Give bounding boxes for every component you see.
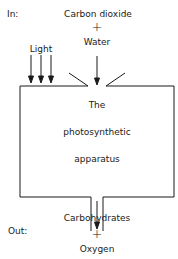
output-plus-sign: +: [92, 229, 103, 239]
input-plus-sign: +: [92, 22, 103, 32]
carbohydrates-label: Carbohydrates: [64, 213, 130, 223]
light-label: Light: [30, 44, 52, 54]
out-label: Out:: [8, 226, 27, 236]
water-arrow-icon: [95, 56, 100, 85]
box-line-photosynthetic: photosynthetic: [63, 127, 130, 137]
box-line-the: The: [89, 100, 106, 110]
box-line-apparatus: apparatus: [74, 154, 120, 164]
oxygen-label: Oxygen: [80, 244, 115, 254]
funnel-left-line: [69, 73, 88, 86]
photosynthesis-diagram: In: Carbon dioxide + Water Light The pho…: [0, 0, 178, 259]
water-label: Water: [84, 37, 111, 47]
light-arrows-icon: [29, 55, 54, 83]
carbon-dioxide-label: Carbon dioxide: [64, 9, 132, 19]
funnel-right-line: [106, 73, 125, 86]
in-label: In:: [7, 9, 18, 19]
